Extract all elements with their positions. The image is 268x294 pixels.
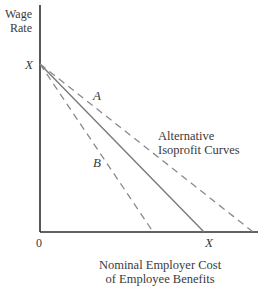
y-intercept-label: X (24, 57, 34, 72)
curve-label-a: A (92, 88, 101, 103)
x-axis-label-line2: of Employee Benefits (106, 272, 215, 286)
y-axis-label-line2: Rate (10, 21, 32, 35)
annotation-line2: Isoprofit Curves (158, 143, 240, 157)
curve-label-b: B (93, 155, 101, 170)
x-intercept-label: X (204, 235, 214, 250)
x-axis-label-line1: Nominal Employer Cost (99, 258, 222, 272)
annotation-line1: Alternative (158, 129, 215, 143)
y-axis-label-line1: Wage (5, 7, 32, 21)
isoprofit-diagram: Wage Rate X A B Alternative Isoprofit Cu… (0, 0, 268, 294)
origin-label: 0 (36, 236, 42, 250)
